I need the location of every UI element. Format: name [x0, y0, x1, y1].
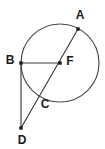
segment-ad [21, 29, 78, 128]
point-label-d: D [18, 133, 27, 147]
point-b-dot [19, 61, 22, 64]
point-label-a: A [76, 8, 85, 22]
point-label-b: B [6, 53, 15, 67]
geometry-canvas: A B F C D [0, 0, 105, 149]
point-label-f: F [66, 54, 73, 68]
point-f-dot [58, 61, 61, 64]
geometry-diagram: A B F C D [0, 0, 105, 149]
point-label-c: C [41, 97, 50, 111]
point-d-dot [19, 126, 22, 129]
point-a-dot [76, 27, 79, 30]
